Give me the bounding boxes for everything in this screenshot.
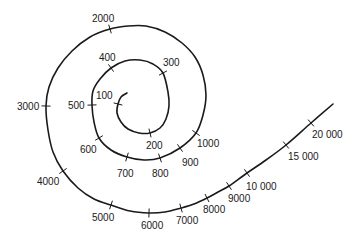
tick-label-500: 500 (68, 100, 85, 111)
spiral-curve (46, 25, 333, 213)
tick-label-400: 400 (99, 52, 116, 63)
tick-label-7000: 7000 (176, 215, 199, 226)
tick-mark-400 (108, 64, 113, 71)
tick-mark-9000 (227, 182, 232, 190)
tick-label-20000: 20 000 (312, 129, 343, 140)
tick-label-6000: 6000 (141, 220, 164, 231)
tick-label-5000: 5000 (92, 212, 115, 223)
tick-label-4000: 4000 (37, 176, 60, 187)
tick-label-900: 900 (182, 157, 199, 168)
tick-label-9000: 9000 (228, 193, 251, 204)
tick-label-800: 800 (152, 168, 169, 179)
tick-label-100: 100 (96, 90, 113, 101)
tick-labels: 1002003004005006007008009001000200030004… (17, 13, 343, 231)
tick-mark-4000 (59, 168, 66, 173)
tick-label-15000: 15 000 (288, 151, 319, 162)
tick-label-200: 200 (146, 140, 163, 151)
tick-label-300: 300 (163, 57, 180, 68)
tick-label-3000: 3000 (17, 101, 40, 112)
tick-label-600: 600 (80, 144, 97, 155)
tick-mark-10000 (244, 169, 249, 176)
tick-label-1000: 1000 (197, 138, 220, 149)
tick-label-2000: 2000 (92, 13, 115, 24)
tick-label-10000: 10 000 (246, 181, 277, 192)
tick-label-700: 700 (117, 168, 134, 179)
tick-mark-900 (177, 144, 182, 151)
tick-mark-1000 (192, 130, 199, 135)
spiral-scale-diagram: 1002003004005006007008009001000200030004… (0, 0, 359, 240)
tick-label-8000: 8000 (203, 204, 226, 215)
